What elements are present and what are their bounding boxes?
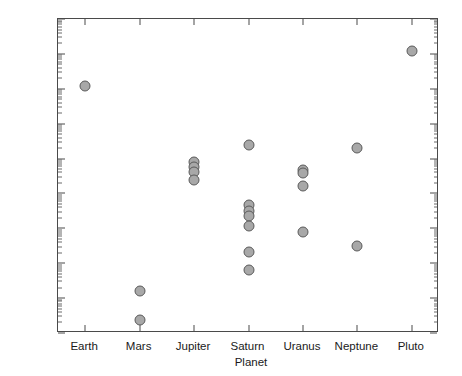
- x-tick: [194, 325, 195, 331]
- data-point: [297, 168, 308, 179]
- x-tick: [411, 325, 412, 331]
- y-tick-minor-right: [434, 201, 438, 202]
- y-tick-minor-right: [434, 195, 438, 196]
- y-tick-minor-right: [434, 316, 438, 317]
- y-tick-minor: [58, 242, 62, 243]
- y-tick-minor-right: [434, 59, 438, 60]
- y-tick-minor-right: [434, 246, 438, 247]
- y-tick-minor-right: [434, 299, 438, 300]
- y-tick-minor: [58, 24, 62, 25]
- x-tick-label-jupiter: Jupiter: [176, 340, 211, 352]
- y-tick-minor-right: [434, 196, 438, 197]
- y-tick-minor-right: [434, 236, 438, 237]
- y-tick-minor: [58, 129, 62, 130]
- y-tick-minor: [58, 172, 62, 173]
- figure: Moon/Planet Mass Ratio 10010−110−210−310…: [0, 0, 462, 376]
- x-tick-top: [411, 19, 412, 25]
- y-tick-minor: [58, 90, 62, 91]
- x-tick-label-mars: Mars: [126, 340, 152, 352]
- y-tick-minor: [58, 125, 62, 126]
- y-tick-minor: [58, 160, 62, 161]
- y-tick-minor: [58, 287, 62, 288]
- y-tick-minor: [58, 217, 62, 218]
- y-tick-minor-right: [434, 20, 438, 21]
- y-tick-minor-right: [434, 242, 438, 243]
- x-tick: [357, 325, 358, 331]
- y-tick-minor: [58, 148, 62, 149]
- y-tick-minor: [58, 176, 62, 177]
- y-tick-minor-right: [434, 96, 438, 97]
- y-tick-minor-right: [434, 78, 438, 79]
- y-tick-minor-right: [434, 43, 438, 44]
- y-tick-minor: [58, 203, 62, 204]
- x-tick: [85, 325, 86, 331]
- y-tick-minor: [58, 270, 62, 271]
- y-tick-minor-right: [434, 277, 438, 278]
- y-tick-minor-right: [434, 176, 438, 177]
- y-tick-minor: [58, 32, 62, 33]
- y-tick-minor-right: [434, 207, 438, 208]
- y-tick-minor: [58, 238, 62, 239]
- y-tick-minor: [58, 99, 62, 100]
- y-tick-minor-right: [434, 233, 438, 234]
- y-tick-minor-right: [434, 161, 438, 162]
- y-tick-minor: [58, 72, 62, 73]
- y-tick-minor: [58, 169, 62, 170]
- y-tick-minor-right: [434, 113, 438, 114]
- y-tick-minor: [58, 96, 62, 97]
- y-tick-minor-right: [434, 94, 438, 95]
- data-point: [134, 285, 145, 296]
- y-tick-minor: [58, 94, 62, 95]
- y-tick-minor-right: [434, 231, 438, 232]
- y-tick-minor-right: [434, 131, 438, 132]
- y-tick-minor-right: [434, 163, 438, 164]
- y-tick-minor: [58, 277, 62, 278]
- y-tick-minor-right: [434, 252, 438, 253]
- y-tick-minor: [58, 61, 62, 62]
- y-tick-minor: [58, 20, 62, 21]
- y-tick-minor: [58, 43, 62, 44]
- plot-area: [57, 18, 438, 332]
- y-tick-minor: [58, 163, 62, 164]
- y-tick-minor-right: [434, 308, 438, 309]
- y-tick-minor: [58, 161, 62, 162]
- data-point: [243, 246, 254, 257]
- y-tick-minor: [58, 268, 62, 269]
- data-point: [243, 140, 254, 151]
- data-point: [243, 264, 254, 275]
- y-tick-minor-right: [434, 198, 438, 199]
- y-tick-minor: [58, 211, 62, 212]
- y-tick-minor-right: [434, 270, 438, 271]
- y-tick-minor-right: [434, 160, 438, 161]
- x-tick-top: [85, 19, 86, 25]
- y-tick-minor-right: [434, 134, 438, 135]
- x-tick-top: [248, 19, 249, 25]
- y-tick-minor: [58, 266, 62, 267]
- y-tick-minor-right: [434, 266, 438, 267]
- y-tick-minor: [58, 59, 62, 60]
- y-tick-minor-right: [434, 305, 438, 306]
- y-tick-minor: [58, 64, 62, 65]
- y-tick-minor: [58, 102, 62, 103]
- y-tick-minor: [58, 113, 62, 114]
- y-tick-minor-right: [434, 90, 438, 91]
- data-point: [134, 314, 145, 325]
- x-tick-label-saturn: Saturn: [231, 340, 265, 352]
- y-tick-minor: [58, 107, 62, 108]
- y-tick-minor: [58, 57, 62, 58]
- y-tick-minor-right: [434, 273, 438, 274]
- y-tick-minor: [58, 67, 62, 68]
- y-tick-minor: [58, 252, 62, 253]
- y-tick-minor: [58, 322, 62, 323]
- y-tick-minor: [58, 281, 62, 282]
- y-tick-minor-right: [434, 55, 438, 56]
- y-tick-minor-right: [434, 166, 438, 167]
- x-axis-title: Planet: [235, 356, 268, 368]
- y-tick-minor-right: [434, 322, 438, 323]
- y-tick-minor: [58, 55, 62, 56]
- y-tick-minor-right: [434, 238, 438, 239]
- y-tick-minor: [58, 26, 62, 27]
- y-tick-minor: [58, 137, 62, 138]
- y-tick-minor-right: [434, 127, 438, 128]
- y-tick-minor: [58, 166, 62, 167]
